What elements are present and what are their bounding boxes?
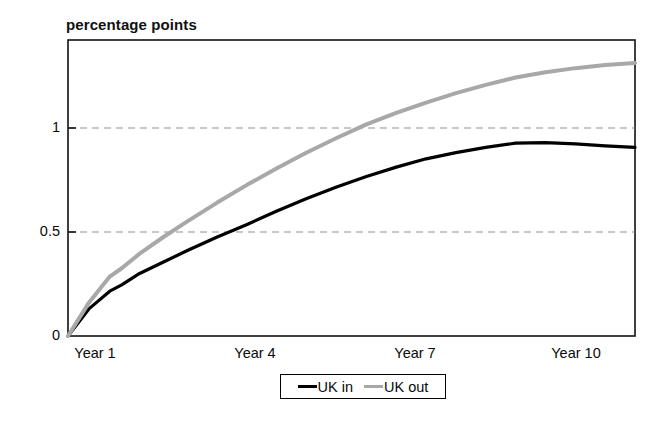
legend-line-swatch-icon: [298, 385, 317, 388]
ytick-label-0-5: 0.5: [16, 223, 60, 239]
xtick-label-year-10: Year 10: [531, 345, 621, 361]
chart-legend: UK in UK out: [280, 374, 446, 399]
series-layer: [68, 63, 635, 336]
legend-item-uk-out: UK out: [364, 379, 428, 395]
chart-figure: percentage points 1 0.5 0 Year 1 Year 4 …: [0, 0, 671, 427]
ytick-label-0: 0: [22, 327, 60, 343]
xtick-label-year-7: Year 7: [373, 345, 457, 361]
legend-label-uk-in: UK in: [318, 379, 353, 395]
legend-line-swatch-gray-icon: [364, 385, 383, 388]
legend-label-uk-out: UK out: [384, 379, 428, 395]
plot-area: [0, 0, 671, 427]
plot-frame: [68, 40, 635, 336]
xtick-label-year-4: Year 4: [213, 345, 297, 361]
series-line-uk-in: [68, 143, 635, 336]
legend-item-uk-in: UK in: [298, 379, 353, 395]
series-line-uk-out: [68, 63, 635, 336]
ytick-label-1: 1: [22, 119, 60, 135]
xtick-label-year-1: Year 1: [53, 345, 137, 361]
